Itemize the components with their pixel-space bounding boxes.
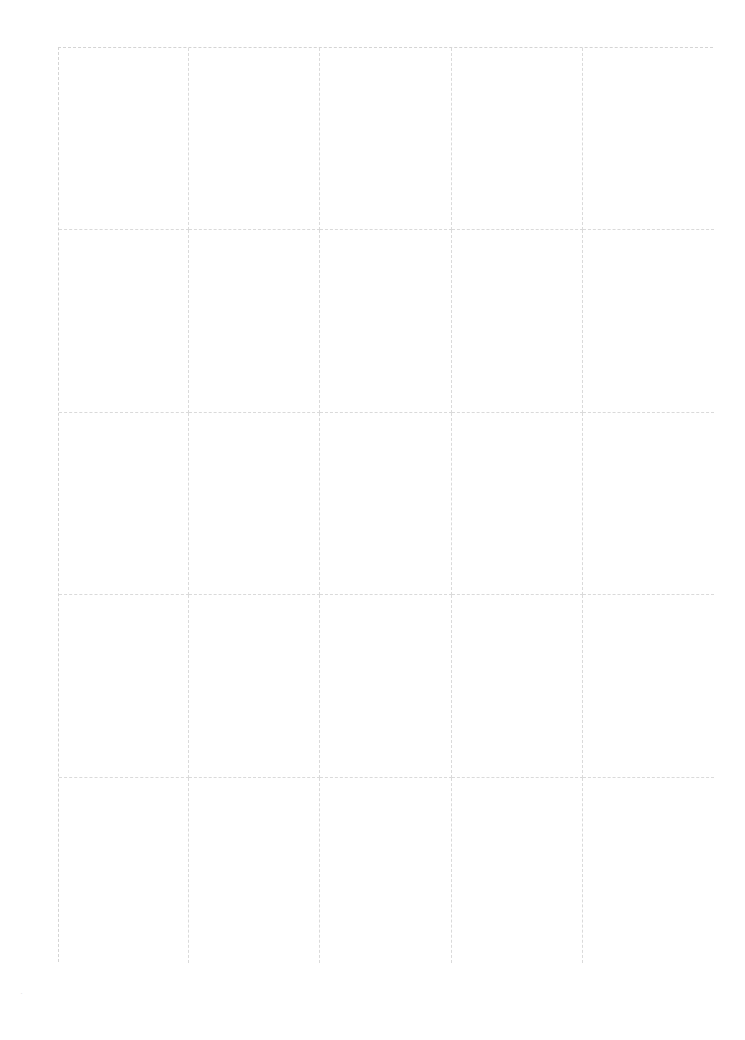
grid-cell <box>59 595 189 778</box>
grid-cell <box>320 595 452 778</box>
grid-cell <box>59 413 189 595</box>
grid-cell <box>189 230 320 413</box>
grid-cell <box>189 595 320 778</box>
grid-cell <box>452 48 583 230</box>
grid-cell <box>452 413 583 595</box>
cell-grid <box>58 47 713 962</box>
grid-cell <box>320 778 452 963</box>
grid-cell <box>59 230 189 413</box>
grid-cell <box>320 48 452 230</box>
grid-cell <box>583 230 714 413</box>
grid-cell <box>189 413 320 595</box>
grid-cell <box>583 778 714 963</box>
grid-cell <box>59 778 189 963</box>
grid-cell <box>583 595 714 778</box>
grid-cell <box>452 595 583 778</box>
grid-cell <box>189 778 320 963</box>
page: · <box>0 0 745 1040</box>
grid-cell <box>583 413 714 595</box>
page-mark: · <box>20 988 24 998</box>
grid-cell <box>452 230 583 413</box>
grid-cell <box>59 48 189 230</box>
grid-cell <box>583 48 714 230</box>
grid-cell <box>320 230 452 413</box>
grid-cell <box>189 48 320 230</box>
grid-cell <box>320 413 452 595</box>
grid-cell <box>452 778 583 963</box>
